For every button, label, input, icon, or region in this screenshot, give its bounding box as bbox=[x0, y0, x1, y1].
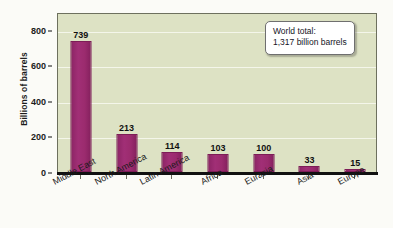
x-axis-category-labels: Middle EastNorth AmericaLatin AmericaAfr… bbox=[0, 178, 393, 228]
y-tick-mark bbox=[48, 137, 52, 138]
bar-chart-figure: Billions of barrels 0200400600800 739213… bbox=[0, 0, 393, 228]
bar-value-label: 114 bbox=[165, 141, 180, 151]
bar-group[interactable]: 739 bbox=[70, 41, 91, 172]
y-tick-label: 600 bbox=[31, 61, 46, 71]
bar-value-label: 100 bbox=[256, 143, 271, 153]
y-tick-label: 800 bbox=[31, 26, 46, 36]
y-tick-mark bbox=[48, 66, 52, 67]
y-tick-mark bbox=[48, 30, 52, 31]
world-total-annotation: World total: 1,317 billion barrels bbox=[265, 21, 355, 55]
y-axis-tick-labels: 0200400600800 bbox=[20, 13, 52, 173]
y-tick-label: 0 bbox=[41, 168, 46, 178]
y-tick-label: 200 bbox=[31, 132, 46, 142]
world-total-line-2: 1,317 billion barrels bbox=[273, 37, 347, 48]
world-total-line-1: World total: bbox=[273, 26, 347, 37]
bar[interactable] bbox=[70, 41, 91, 172]
bar-value-label: 33 bbox=[304, 155, 314, 165]
bar-value-label: 213 bbox=[119, 123, 134, 133]
bar-value-label: 103 bbox=[210, 143, 225, 153]
bar-value-label: 739 bbox=[73, 30, 88, 40]
y-tick-mark bbox=[48, 173, 52, 174]
y-tick-mark bbox=[48, 101, 52, 102]
y-tick-label: 400 bbox=[31, 97, 46, 107]
